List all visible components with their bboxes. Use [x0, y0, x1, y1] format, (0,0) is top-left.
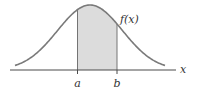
bound-label-b: b: [113, 77, 120, 90]
normal-curve-diagram: f(x) x a b: [0, 0, 197, 97]
shaded-area-a-to-b: [78, 5, 118, 70]
bound-label-a: a: [74, 77, 81, 90]
axis-label-x: x: [180, 63, 187, 76]
curve-label-fx: f(x): [119, 13, 139, 26]
